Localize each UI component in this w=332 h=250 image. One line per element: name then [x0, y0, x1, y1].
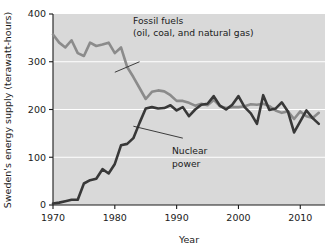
- fossil-fuels-annotation-line2: (oil, coal, and natural gas): [133, 27, 254, 38]
- x-tick-label-2000: 2000: [226, 212, 250, 223]
- y-tick-label-200: 200: [28, 104, 46, 115]
- y-tick-label-100: 100: [28, 152, 46, 163]
- line-chart-svg: 0100200300400 19701980199020002010 Fossi…: [0, 0, 332, 250]
- x-tick-label-2010: 2010: [288, 212, 312, 223]
- nuclear-power-annotation-line1: Nuclear: [172, 145, 208, 156]
- y-tick-label-0: 0: [40, 199, 46, 210]
- y-axis-title: Sweden's energy supply (terawatt-hours): [2, 12, 13, 208]
- nuclear-power-annotation-line2: power: [172, 158, 201, 169]
- x-tick-label-1970: 1970: [41, 212, 65, 223]
- fossil-fuels-annotation-line1: Fossil fuels: [133, 15, 183, 26]
- x-tick-label-1980: 1980: [103, 212, 127, 223]
- chart-figure: 0100200300400 19701980199020002010 Fossi…: [0, 0, 332, 250]
- x-axis-title: Year: [178, 234, 199, 245]
- y-tick-label-400: 400: [28, 8, 46, 19]
- x-tick-label-1990: 1990: [165, 212, 189, 223]
- y-tick-label-300: 300: [28, 56, 46, 67]
